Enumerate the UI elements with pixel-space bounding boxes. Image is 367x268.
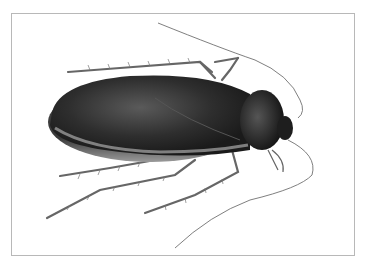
wings [50,75,250,155]
head [277,116,293,140]
mouthparts [268,150,283,172]
cockroach-illustration [0,0,367,268]
pronotum [240,90,284,150]
